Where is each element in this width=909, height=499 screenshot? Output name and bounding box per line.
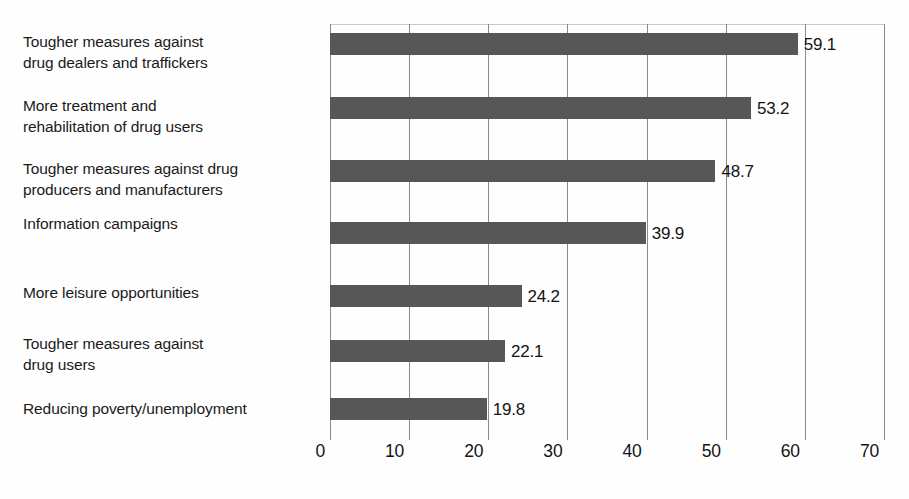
bar-row: 19.8 (330, 398, 884, 420)
category-label: More leisure opportunities (23, 282, 323, 303)
category-label-line: Tougher measures against drug (23, 158, 323, 179)
gridline-70 (884, 24, 885, 440)
x-tick-label-70: 70 (860, 443, 884, 461)
category-label-line: drug dealers and traffickers (23, 52, 323, 73)
bar-row: 48.7 (330, 160, 884, 182)
bar-value-label: 39.9 (652, 225, 684, 242)
bar-value-label: 59.1 (804, 36, 836, 53)
category-label-line: More treatment and (23, 95, 323, 116)
bar-value-label: 19.8 (493, 401, 525, 418)
x-tick-label-30: 30 (543, 443, 567, 461)
bar-row: 53.2 (330, 97, 884, 119)
bar-value-label: 48.7 (721, 163, 753, 180)
category-label-line: More leisure opportunities (23, 282, 323, 303)
bar-row: 24.2 (330, 285, 884, 307)
x-tick-label-20: 20 (464, 443, 488, 461)
category-label-line: Tougher measures against (23, 31, 323, 52)
bar (330, 97, 751, 119)
x-tick-label-60: 60 (781, 443, 805, 461)
category-label: Reducing poverty/unemployment (23, 398, 323, 419)
category-label-line: Tougher measures against (23, 333, 323, 354)
bar (330, 160, 715, 182)
x-tick-label-10: 10 (385, 443, 409, 461)
bar (330, 340, 505, 362)
category-label: Information campaigns (23, 213, 323, 234)
bar-value-label: 24.2 (528, 288, 560, 305)
bar-row: 59.1 (330, 33, 884, 55)
bar (330, 285, 522, 307)
bar (330, 398, 487, 420)
x-tick-label-40: 40 (622, 443, 646, 461)
bar (330, 222, 646, 244)
category-label-line: rehabilitation of drug users (23, 116, 323, 137)
x-tick-label-0: 0 (315, 443, 330, 461)
bar-row: 22.1 (330, 340, 884, 362)
category-label-line: producers and manufacturers (23, 179, 323, 200)
category-label: More treatment andrehabilitation of drug… (23, 95, 323, 137)
category-label: Tougher measures against drugproducers a… (23, 158, 323, 200)
x-tick-label-50: 50 (702, 443, 726, 461)
bar-value-label: 53.2 (757, 100, 789, 117)
bar (330, 33, 798, 55)
category-label: Tougher measures againstdrug users (23, 333, 323, 375)
category-label: Tougher measures againstdrug dealers and… (23, 31, 323, 73)
bar-chart: Tougher measures againstdrug dealers and… (0, 0, 909, 499)
bar-value-label: 22.1 (511, 343, 543, 360)
category-label-line: Information campaigns (23, 213, 323, 234)
category-label-line: drug users (23, 354, 323, 375)
category-label-line: Reducing poverty/unemployment (23, 398, 323, 419)
bar-row: 39.9 (330, 222, 884, 244)
